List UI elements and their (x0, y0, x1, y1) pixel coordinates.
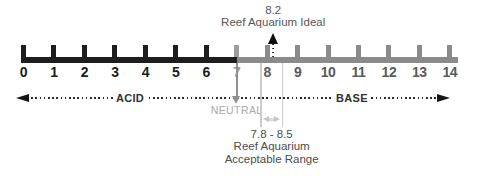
ideal-arrow-up-icon (268, 33, 278, 44)
neutral-arrow-down-icon (232, 96, 240, 104)
tick-label-4: 4 (133, 64, 157, 80)
tick-mark-11 (356, 45, 361, 57)
tick-mark-10 (326, 45, 331, 57)
range-end-line (282, 63, 284, 127)
tick-mark-2 (82, 45, 87, 57)
tick-label-9: 9 (286, 64, 310, 80)
tick-label-12: 12 (377, 64, 401, 80)
range-start-line (260, 63, 262, 127)
tick-label-11: 11 (346, 64, 370, 80)
tick-mark-4 (143, 45, 148, 57)
tick-mark-6 (204, 45, 209, 57)
tick-mark-3 (112, 45, 117, 57)
range-value-label: 7.8 - 8.5 (197, 128, 347, 140)
range-caption-line2: Acceptable Range (197, 153, 347, 165)
tick-label-2: 2 (72, 64, 96, 80)
tick-label-10: 10 (316, 64, 340, 80)
base-bar-segment (237, 57, 458, 63)
ph-scale-diagram: 8.2 Reef Aquarium Ideal 0123456789101112… (0, 0, 483, 176)
ideal-caption: Reef Aquarium Ideal (203, 16, 343, 28)
tick-mark-8 (265, 45, 270, 57)
tick-label-3: 3 (103, 64, 127, 80)
acid-bar-segment (21, 57, 237, 63)
tick-label-6: 6 (194, 64, 218, 80)
range-double-arrow-icon (263, 115, 280, 123)
tick-mark-14 (447, 45, 452, 57)
tick-mark-1 (51, 45, 56, 57)
range-caption: 7.8 - 8.5 Reef Aquarium Acceptable Range (197, 128, 347, 165)
base-label: BASE (312, 92, 392, 104)
tick-label-0: 0 (12, 64, 36, 80)
neutral-arrow-stem (236, 63, 238, 96)
tick-label-13: 13 (407, 64, 431, 80)
base-arrow-right-icon (437, 94, 450, 102)
ideal-value-label: 8.2 (203, 4, 343, 16)
acid-arrow-left-icon (16, 94, 29, 102)
tick-label-8: 8 (255, 64, 279, 80)
tick-mark-5 (173, 45, 178, 57)
tick-mark-13 (417, 45, 422, 57)
tick-mark-0 (21, 45, 26, 57)
ideal-annotation: 8.2 Reef Aquarium Ideal (203, 4, 343, 28)
acid-label: ACID (90, 92, 170, 104)
range-caption-line1: Reef Aquarium (197, 140, 347, 152)
tick-label-5: 5 (164, 64, 188, 80)
tick-label-14: 14 (438, 64, 462, 80)
tick-label-1: 1 (42, 64, 66, 80)
tick-mark-12 (386, 45, 391, 57)
tick-mark-9 (295, 45, 300, 57)
tick-mark-7 (234, 45, 239, 57)
ideal-dotted-line (272, 44, 274, 57)
